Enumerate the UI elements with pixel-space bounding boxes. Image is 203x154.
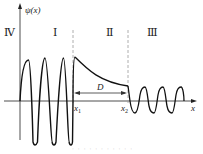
width-d-label: D <box>97 83 104 92</box>
y-axis-arrow-icon <box>18 3 22 9</box>
arrowhead-left-icon <box>74 91 80 95</box>
x-axis-label: x <box>191 104 195 113</box>
region-4-label: Ⅳ <box>4 27 15 38</box>
region-2-label: Ⅱ <box>106 27 113 38</box>
y-axis-label: ψ(x) <box>25 6 41 15</box>
x1-label-sub: 1 <box>78 108 81 114</box>
arrowhead-right-icon <box>121 91 127 95</box>
x1-label: x1 <box>74 104 81 114</box>
region-3-label: Ⅲ <box>147 27 158 38</box>
figure-caption: · · · · · · · · · · · <box>72 145 178 152</box>
x2-label-sub: 2 <box>125 108 128 114</box>
wavefunction-diagram <box>0 0 203 154</box>
region-1-label: Ⅰ <box>53 27 57 38</box>
region-3-wave <box>128 86 184 113</box>
x2-label: x2 <box>121 104 128 114</box>
